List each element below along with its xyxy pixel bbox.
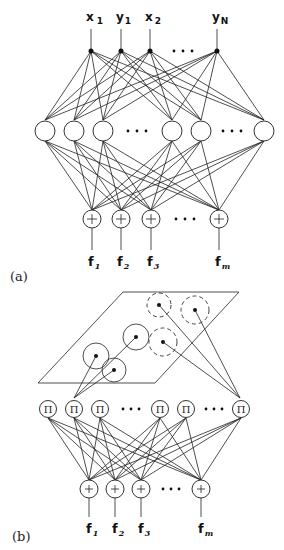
sum-node (112, 210, 130, 228)
input-node (89, 49, 94, 54)
svg-text:Π: Π (96, 404, 105, 415)
sum-layer-a (83, 210, 228, 250)
sum-node (192, 480, 210, 498)
product-layer: Π Π Π Π Π Π (40, 401, 250, 418)
sum-node (210, 210, 228, 228)
hidden-layer (35, 121, 274, 141)
input-node (148, 49, 153, 54)
panel-label-b: (b) (12, 529, 30, 544)
input-ellipsis (173, 50, 194, 53)
product-node: Π (92, 401, 109, 418)
svg-text:Π: Π (237, 404, 246, 415)
hidden-node (64, 121, 84, 141)
sum-layer-b (80, 480, 210, 517)
output-label-f3: f3 (147, 254, 160, 271)
hidden-ellipsis (127, 130, 243, 133)
product-node: Π (40, 401, 57, 418)
hidden-node (35, 121, 55, 141)
output-label-f1: f1 (88, 254, 100, 271)
sum-node (142, 210, 160, 228)
input-hidden-connections (45, 51, 264, 120)
sum-node (132, 480, 150, 498)
hidden-node (93, 121, 113, 141)
input-label-y1: y1 (116, 10, 131, 26)
product-node: Π (66, 401, 83, 418)
output-label-f2: f2 (112, 521, 125, 538)
svg-text:Π: Π (70, 404, 79, 415)
product-sum-connections (48, 418, 241, 480)
product-ellipsis (122, 408, 224, 411)
output-label-fm: fm (215, 254, 230, 271)
input-node (119, 49, 124, 54)
input-label-x1: x1 (86, 10, 103, 26)
svg-text:Π: Π (156, 404, 165, 415)
sum-ellipsis (162, 488, 181, 491)
input-label-x2: x2 (145, 10, 161, 26)
hidden-node (254, 121, 274, 141)
sum-node (83, 210, 101, 228)
output-label-f2: f2 (117, 254, 130, 271)
panel-a: x1 y1 x2 yN (10, 10, 274, 284)
output-label-fm: fm (198, 521, 213, 538)
hidden-sum-connections (45, 141, 264, 210)
svg-text:Π: Π (44, 404, 53, 415)
sum-node (106, 480, 124, 498)
product-node: Π (178, 401, 195, 418)
sum-ellipsis (175, 218, 196, 221)
network-diagram: x1 y1 x2 yN (0, 0, 284, 550)
svg-text:Π: Π (182, 404, 191, 415)
sum-node (80, 480, 98, 498)
input-label-yN: yN (212, 10, 228, 26)
hidden-node (162, 121, 182, 141)
panel-label-a: (a) (10, 269, 28, 284)
output-label-f3: f3 (138, 521, 151, 538)
product-node: Π (233, 401, 250, 418)
panel-b: Π Π Π Π Π Π (12, 292, 250, 544)
hidden-node (191, 121, 211, 141)
product-node: Π (152, 401, 169, 418)
input-node (215, 49, 220, 54)
output-label-f1: f1 (86, 521, 98, 538)
